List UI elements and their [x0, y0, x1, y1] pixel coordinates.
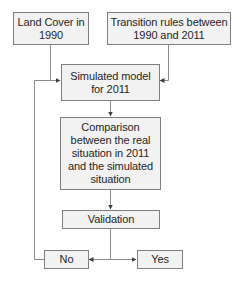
edge-no-to-simulated [35, 81, 51, 260]
node-transition-rules: Transition rules between 1990 and 2011 [107, 12, 231, 45]
node-land-cover-1990: Land Cover in 1990 [13, 12, 89, 45]
edge-transition-to-simulated [160, 44, 169, 81]
node-simulated-model: Simulated model for 2011 [61, 64, 160, 101]
node-yes: Yes [137, 250, 183, 269]
node-validation: Validation [62, 210, 160, 229]
node-no: No [44, 250, 89, 269]
edge-landcover-to-simulated [51, 44, 61, 81]
node-comparison: Comparison between the real situation in… [60, 117, 161, 190]
